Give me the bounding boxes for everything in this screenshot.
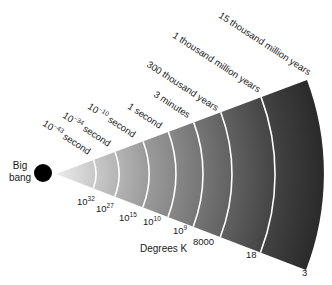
temp-label-8: 3 <box>302 267 307 278</box>
big-bang-diagram: Big bang 10−43 second 10−34 second 10−10… <box>0 0 332 285</box>
temp-label-7: 18 <box>246 249 257 260</box>
big-bang-label-line2: bang <box>9 172 31 183</box>
temp-label-4: 1010 <box>143 215 161 227</box>
big-bang-label-line1: Big <box>13 160 27 171</box>
temp-label-6: 8000 <box>193 236 214 247</box>
temp-label-5: 109 <box>173 224 188 236</box>
temp-label-2: 1027 <box>96 202 114 214</box>
big-bang-dot <box>34 164 52 182</box>
temp-label-3: 1015 <box>119 211 137 223</box>
axis-label-degrees-k: Degrees K <box>140 243 188 254</box>
temp-label-1: 1032 <box>77 195 95 207</box>
